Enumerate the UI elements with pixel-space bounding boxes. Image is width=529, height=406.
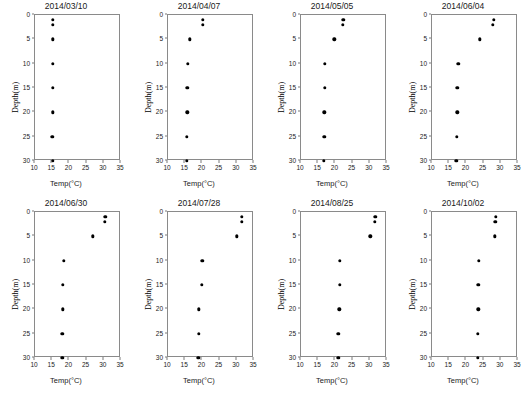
data-point: [322, 159, 325, 162]
data-point: [240, 220, 243, 223]
data-point: [493, 235, 496, 238]
data-point: [51, 38, 54, 41]
x-tick-mark: [120, 357, 121, 360]
y-tick-label: 25: [16, 329, 30, 336]
y-tick-label: 10: [413, 256, 427, 263]
profile-panel: 2014/07/28Depth(m)Temp(°C)05101520253010…: [133, 197, 265, 400]
data-point: [455, 135, 458, 138]
x-tick-mark: [167, 357, 168, 360]
y-tick-label: 0: [149, 208, 163, 215]
data-point: [323, 111, 326, 114]
y-tick-label: 10: [16, 256, 30, 263]
x-tick-mark: [218, 160, 219, 163]
data-point: [62, 259, 65, 262]
profile-panel: 2014/08/25Depth(m)Temp(°C)05101520253010…: [266, 197, 398, 400]
x-tick-label: 25: [343, 164, 361, 171]
data-point: [478, 38, 481, 41]
data-point: [60, 332, 63, 335]
y-tick-label: 15: [413, 281, 427, 288]
data-point: [188, 38, 191, 41]
x-tick-label: 20: [192, 164, 210, 171]
data-point: [200, 283, 203, 286]
data-point: [338, 259, 341, 262]
x-tick-mark: [386, 160, 387, 163]
x-tick-mark: [253, 357, 254, 360]
y-tick-label: 5: [413, 35, 427, 42]
data-point: [341, 23, 344, 26]
y-tick-label: 0: [16, 208, 30, 215]
x-tick-mark: [499, 160, 500, 163]
data-point: [476, 332, 479, 335]
y-tick-label: 5: [16, 232, 30, 239]
data-point: [323, 86, 326, 89]
profile-panel: 2014/04/07Depth(m)Temp(°C)05101520253010…: [133, 0, 265, 203]
data-point: [61, 308, 64, 311]
panel-title: 2014/06/04: [397, 1, 529, 11]
x-tick-mark: [368, 160, 369, 163]
x-tick-mark: [368, 357, 369, 360]
x-tick-label: 20: [456, 361, 474, 368]
x-tick-label: 25: [210, 164, 228, 171]
y-tick-label: 10: [16, 59, 30, 66]
y-tick-label: 0: [413, 208, 427, 215]
x-tick-mark: [85, 160, 86, 163]
x-tick-mark: [34, 160, 35, 163]
y-tick-label: 30: [149, 354, 163, 361]
y-tick-label: 25: [413, 329, 427, 336]
data-point: [186, 62, 189, 65]
x-tick-label: 30: [491, 164, 509, 171]
x-tick-label: 10: [25, 361, 43, 368]
data-point: [61, 283, 64, 286]
y-tick-label: 10: [149, 59, 163, 66]
profile-panel: 2014/05/05Depth(m)Temp(°C)05101520253010…: [266, 0, 398, 203]
x-tick-label: 30: [227, 164, 245, 171]
panel-title: 2014/06/30: [0, 198, 132, 208]
y-tick-label: 25: [282, 329, 296, 336]
x-tick-mark: [465, 160, 466, 163]
y-tick-label: 30: [413, 354, 427, 361]
y-tick-label: 0: [282, 208, 296, 215]
data-point: [373, 220, 376, 223]
x-tick-label: 35: [377, 164, 395, 171]
x-tick-mark: [431, 357, 432, 360]
y-tick-label: 5: [149, 232, 163, 239]
y-tick-label: 0: [149, 11, 163, 18]
y-tick-label: 10: [282, 256, 296, 263]
x-tick-label: 20: [456, 164, 474, 171]
data-point: [51, 18, 54, 21]
x-tick-mark: [167, 160, 168, 163]
x-tick-mark: [34, 357, 35, 360]
x-tick-mark: [499, 357, 500, 360]
x-tick-mark: [68, 160, 69, 163]
y-tick-label: 15: [282, 281, 296, 288]
x-tick-label: 15: [439, 361, 457, 368]
y-tick-label: 15: [16, 281, 30, 288]
x-tick-label: 10: [291, 164, 309, 171]
x-tick-mark: [300, 160, 301, 163]
y-tick-label: 15: [282, 84, 296, 91]
x-tick-mark: [51, 357, 52, 360]
data-point: [494, 220, 497, 223]
x-tick-mark: [120, 160, 121, 163]
x-tick-mark: [68, 357, 69, 360]
x-tick-label: 35: [508, 361, 526, 368]
data-point: [185, 159, 188, 162]
panel-title: 2014/04/07: [133, 1, 265, 11]
y-tick-label: 30: [16, 354, 30, 361]
x-tick-label: 30: [360, 361, 378, 368]
data-point: [51, 159, 54, 162]
y-tick-label: 20: [413, 305, 427, 312]
x-tick-label: 20: [59, 361, 77, 368]
data-point: [197, 356, 200, 359]
plot-area: [300, 14, 386, 160]
panel-title: 2014/10/02: [397, 198, 529, 208]
x-tick-label: 35: [244, 164, 262, 171]
data-point: [455, 86, 458, 89]
x-tick-label: 10: [422, 361, 440, 368]
y-tick-label: 15: [149, 84, 163, 91]
x-tick-label: 15: [42, 361, 60, 368]
y-tick-label: 30: [282, 157, 296, 164]
y-tick-label: 5: [282, 35, 296, 42]
x-tick-label: 20: [325, 164, 343, 171]
x-tick-mark: [235, 160, 236, 163]
